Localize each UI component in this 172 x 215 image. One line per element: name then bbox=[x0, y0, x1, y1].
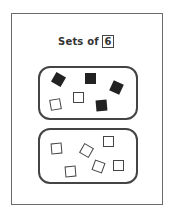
empty-square-icon bbox=[103, 136, 114, 147]
empty-square-icon bbox=[65, 166, 77, 178]
filled-square-icon bbox=[96, 100, 108, 112]
empty-square-icon bbox=[73, 92, 84, 103]
title-label: Sets of bbox=[58, 36, 99, 47]
set-size-box: 6 bbox=[102, 35, 114, 48]
empty-square-icon bbox=[49, 98, 62, 111]
filled-square-icon bbox=[85, 73, 96, 84]
empty-square-icon bbox=[113, 160, 124, 171]
empty-square-icon bbox=[51, 143, 63, 155]
